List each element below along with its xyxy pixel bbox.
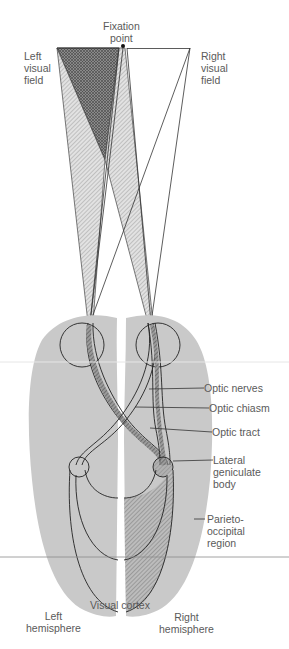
left-hemisphere-shape (29, 315, 118, 617)
visual-pathway-diagram (0, 0, 289, 649)
left-visual-field-label: Left visual field (24, 50, 51, 86)
optic-nerves-label: Optic nerves (204, 382, 263, 394)
right-hemisphere-label: Right hemisphere (159, 611, 214, 635)
right-field-box (127, 48, 190, 49)
parieto-occipital-region-label: Parieto- occipital region (207, 513, 245, 549)
visual-cortex-label: Visual cortex (90, 599, 150, 611)
brain (29, 315, 212, 618)
fixation-point-label: Fixation point (103, 20, 140, 44)
visual-field-rays (57, 44, 190, 323)
left-hemisphere-label: Left hemisphere (26, 610, 81, 634)
fixation-point-dot (121, 44, 125, 48)
lateral-geniculate-body-label: Lateral geniculate body (213, 454, 261, 490)
right-visual-field-label: Right visual field (201, 50, 228, 86)
optic-chiasm-label: Optic chiasm (209, 402, 270, 414)
optic-tract-label: Optic tract (212, 426, 260, 438)
